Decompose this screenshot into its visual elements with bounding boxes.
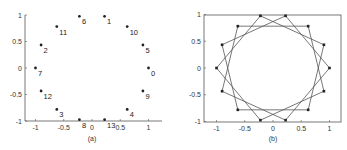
star-polygon-lines-b [217, 16, 330, 120]
data-point [34, 67, 37, 70]
point-label: 6 [82, 17, 86, 26]
star-edge [260, 16, 324, 45]
y-tick-label: 0.5 [191, 38, 201, 45]
data-point [259, 119, 262, 122]
data-point [284, 15, 287, 18]
data-point [323, 90, 326, 93]
point-label: 5 [145, 46, 149, 55]
data-point [259, 15, 262, 18]
chart-panel-b: -1-0.500.51 -1-0.500.51 (b) [189, 11, 341, 143]
caption-b: (b) [269, 135, 278, 143]
point-label: 9 [145, 92, 149, 101]
data-point [142, 44, 145, 47]
data-point [237, 109, 240, 112]
data-point [221, 90, 224, 93]
data-point [142, 90, 145, 93]
figure: -1-0.500.51 -1-0.500.51 0123456789101112… [0, 0, 347, 150]
data-points-a: 012345678910111213 [34, 15, 155, 130]
chart-panel-a: -1-0.500.51 -1-0.500.51 0123456789101112… [10, 12, 162, 144]
data-point [307, 109, 310, 112]
x-tick-label: 0 [90, 124, 94, 131]
point-label: 3 [59, 110, 63, 119]
axes-a: -1-0.500.51 -1-0.500.51 [10, 12, 162, 132]
point-label: 10 [130, 28, 138, 37]
point-label: 4 [130, 110, 134, 119]
data-point [78, 15, 81, 18]
x-tick-label: 1 [328, 125, 332, 132]
point-label: 11 [59, 28, 67, 37]
y-tick-label: 1 [197, 11, 201, 18]
axes-b: -1-0.500.51 -1-0.500.51 [189, 11, 341, 132]
star-edge [217, 16, 261, 68]
y-tick-label: -1 [16, 118, 22, 125]
data-point [40, 44, 43, 47]
y-tick-label: -0.5 [10, 91, 22, 98]
point-label: 2 [44, 46, 48, 55]
x-tick-label: 1 [147, 124, 151, 131]
data-point [221, 43, 224, 46]
y-tick-label: 1 [18, 12, 22, 19]
data-point [215, 67, 218, 70]
data-point [284, 119, 287, 122]
data-point [78, 118, 81, 121]
data-point [126, 25, 129, 28]
star-edge [260, 91, 324, 120]
point-label: 7 [38, 69, 42, 78]
data-point [307, 25, 310, 28]
data-point [103, 118, 106, 121]
x-tick-label: -0.5 [239, 125, 251, 132]
data-point [40, 90, 43, 93]
y-tick-label: 0.5 [12, 38, 22, 45]
data-point [55, 25, 58, 28]
point-label: 8 [82, 121, 86, 130]
data-point [323, 43, 326, 46]
data-points-b [215, 15, 331, 122]
data-point [328, 67, 331, 70]
y-tick-label: -1 [195, 118, 201, 125]
y-tick-label: -0.5 [189, 91, 201, 98]
data-point [126, 108, 129, 111]
x-tick-label: -1 [32, 124, 38, 131]
point-label: 1 [107, 17, 111, 26]
x-tick-label: -1 [213, 125, 219, 132]
data-point [147, 67, 150, 70]
x-tick-label: 0.5 [296, 125, 306, 132]
y-ticks-b: -1-0.500.51 [189, 11, 206, 125]
axes-frame-b [204, 15, 341, 122]
point-label: 12 [44, 92, 52, 101]
x-tick-label: 0.5 [115, 124, 125, 131]
x-tick-label: -0.5 [58, 124, 70, 131]
star-edge [286, 16, 330, 68]
y-tick-label: 0 [197, 65, 201, 72]
data-point [237, 25, 240, 28]
data-point [103, 15, 106, 18]
point-label: 0 [151, 69, 155, 78]
point-label: 13 [107, 121, 115, 130]
star-edge [222, 91, 286, 120]
caption-a: (a) [88, 135, 97, 143]
x-tick-label: 0 [271, 125, 275, 132]
star-edge [217, 68, 261, 120]
star-edge [286, 68, 330, 120]
y-tick-label: 0 [18, 65, 22, 72]
star-edge [222, 16, 286, 45]
y-ticks-a: -1-0.500.51 [10, 12, 27, 125]
data-point [55, 108, 58, 111]
